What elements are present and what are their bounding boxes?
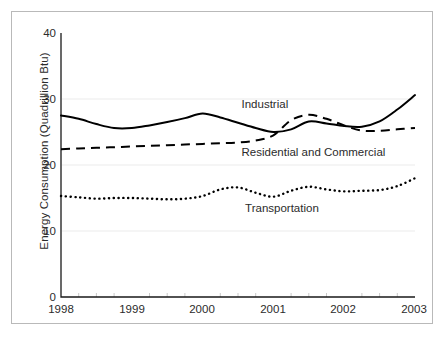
chart-page: Energy Consumption (Quadrillion Btu) 40 …	[0, 0, 447, 342]
y-tick-label-0: 0	[30, 291, 56, 303]
x-tick-label-1999: 1999	[112, 303, 152, 315]
series-label-residential-and-commercial: Residential and Commercial	[242, 146, 386, 158]
line-chart: Energy Consumption (Quadrillion Btu) 40 …	[0, 0, 447, 342]
x-tick-label-1998: 1998	[41, 303, 81, 315]
y-tick-label-10: 10	[30, 225, 56, 237]
y-tick-label-30: 30	[30, 93, 56, 105]
x-tick-label-2001: 2001	[253, 303, 293, 315]
series-label-transportation: Transportation	[245, 202, 319, 214]
series-line-transportation	[61, 178, 415, 199]
plot-canvas	[0, 0, 447, 342]
y-tick-label-40: 40	[30, 27, 56, 39]
x-tick-label-2002: 2002	[323, 303, 363, 315]
y-axis-title: Energy Consumption (Quadrillion Btu)	[38, 11, 50, 291]
gridlines	[62, 99, 415, 231]
x-tick-label-2000: 2000	[182, 303, 222, 315]
series-line-industrial	[61, 95, 415, 132]
x-tick-label-2003: 2003	[394, 303, 434, 315]
series-line-residential-and-commercial	[61, 115, 415, 149]
y-tick-label-20: 20	[30, 159, 56, 171]
series-label-industrial: Industrial	[242, 98, 289, 110]
